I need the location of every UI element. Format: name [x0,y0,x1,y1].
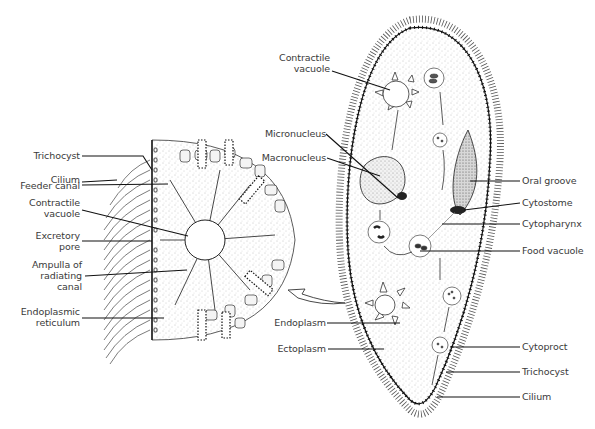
label-ampulla: Ampulla of radiating canal [0,259,82,292]
cross-section-cilia [104,160,150,364]
cytostome [450,206,466,214]
label-cytostome: Cytostome [522,197,572,208]
paramecium-organism [339,19,500,414]
label-line: radiating [0,270,82,281]
label-micronucleus: Micronucleus [240,128,326,139]
label-line: vacuole [250,63,330,74]
label-excretory-pore: Excretory pore [0,230,80,252]
label-contractile-vacuole-cross: Contractile vacuole [0,197,80,219]
label-trichocyst-cross: Trichocyst [0,150,80,161]
label-line: Ampulla of [0,259,82,270]
label-oral-groove: Oral groove [522,175,577,186]
label-ectoplasm: Ectoplasm [240,343,326,354]
label-contractile-vacuole-organism: Contractile vacuole [250,52,330,74]
label-line: canal [0,281,82,292]
magnify-arrow [288,289,345,304]
label-feeder-canal: Feeder canal [0,180,80,191]
label-line: Endoplasmic [0,306,80,317]
label-trichocyst-organism: Trichocyst [522,366,569,377]
cross-section [104,140,295,364]
label-line: Excretory [0,230,80,241]
label-line: reticulum [0,317,80,328]
label-line: Contractile [250,52,330,63]
label-endoplasm: Endoplasm [240,317,326,328]
label-macronucleus: Macronucleus [240,152,326,163]
label-endoplasmic-reticulum: Endoplasmic reticulum [0,306,80,328]
label-food-vacuole: Food vacuole [522,245,584,256]
label-cytoproct: Cytoproct [522,341,567,352]
label-line: vacuole [0,208,80,219]
label-line: pore [0,241,80,252]
label-cilium-organism: Cilium [522,391,551,402]
label-cytopharynx: Cytopharynx [522,218,582,229]
label-line: Contractile [0,197,80,208]
micronucleus [397,192,407,200]
